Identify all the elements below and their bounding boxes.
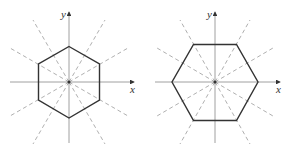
y-axis-label: y	[206, 8, 212, 20]
x-axis-label: x	[129, 83, 135, 95]
diagram-canvas: y x y x	[0, 0, 289, 152]
y-axis-label: y	[60, 8, 66, 20]
x-axis-label: x	[275, 83, 281, 95]
origin-point	[68, 81, 71, 84]
axes	[10, 12, 134, 143]
axes	[155, 12, 280, 143]
origin-point	[214, 81, 217, 84]
figure-left: y x	[10, 8, 135, 144]
figure-right: y x	[155, 8, 281, 144]
